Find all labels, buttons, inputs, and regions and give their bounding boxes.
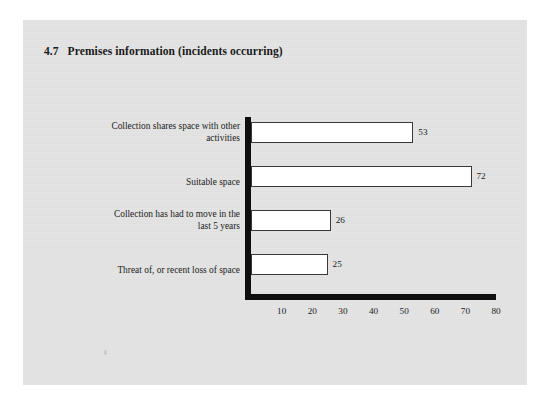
x-tick-label-50: 50: [392, 306, 416, 316]
x-axis-spine: [245, 294, 496, 300]
x-tick-label-70: 70: [453, 306, 477, 316]
category-label-2-line-0: Collection has had to move in the: [40, 208, 240, 220]
x-tick-label-20: 20: [300, 306, 324, 316]
bar-value-1: 72: [477, 166, 486, 187]
chart-figure: 4.7 Premises information (incidents occu…: [0, 0, 550, 407]
bar-collection-had-to-move: [251, 210, 331, 231]
x-tick-label-80: 80: [484, 306, 508, 316]
y-axis-spine: [245, 117, 251, 300]
category-label-1: Suitable space: [40, 176, 240, 188]
bar-collection-shares-space: [251, 122, 413, 143]
bar-value-2: 26: [336, 210, 345, 231]
category-label-2: Collection has had to move in the last 5…: [40, 208, 240, 232]
scan-artifact-speck: [104, 350, 107, 355]
category-label-3-line-0: Threat of, or recent loss of space: [40, 264, 240, 276]
bar-suitable-space: [251, 166, 472, 187]
bar-threat-of-loss-of-space: [251, 254, 328, 275]
category-label-1-line-0: Suitable space: [40, 176, 240, 188]
x-tick-label-40: 40: [362, 306, 386, 316]
category-label-0-line-1: activities: [40, 132, 240, 144]
category-label-0: Collection shares space with other activ…: [40, 120, 240, 144]
x-tick-label-60: 60: [423, 306, 447, 316]
x-tick-label-10: 10: [270, 306, 294, 316]
category-label-3: Threat of, or recent loss of space: [40, 264, 240, 276]
plot-area: Collection shares space with other activ…: [0, 0, 550, 407]
bar-value-0: 53: [418, 122, 427, 143]
x-tick-label-30: 30: [331, 306, 355, 316]
category-label-0-line-0: Collection shares space with other: [40, 120, 240, 132]
bar-value-3: 25: [333, 254, 342, 275]
category-label-2-line-1: last 5 years: [40, 220, 240, 232]
